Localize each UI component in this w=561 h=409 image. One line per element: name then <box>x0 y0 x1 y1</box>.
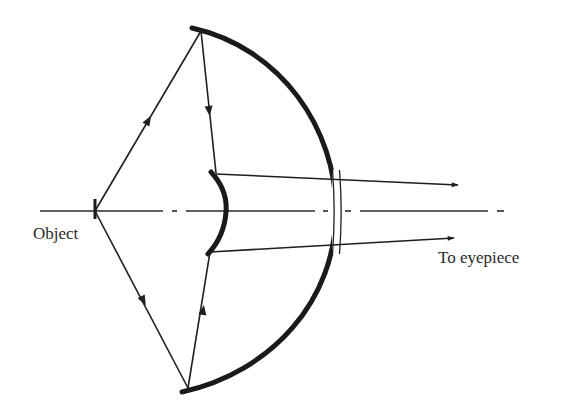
primary-mirror <box>182 28 336 392</box>
rays <box>95 31 458 388</box>
to-eyepiece-label: To eyepiece <box>438 248 519 267</box>
arrow-down-icon <box>205 106 214 117</box>
ray-lower-reflected <box>188 252 210 388</box>
secondary-mirror <box>208 172 226 254</box>
primary-mirror-window <box>332 170 341 254</box>
arrow-up-icon <box>143 114 155 127</box>
object-label: Object <box>33 224 79 243</box>
telescope-ray-diagram: Object To eyepiece <box>0 0 561 409</box>
ray-upper-reflected <box>201 31 216 173</box>
